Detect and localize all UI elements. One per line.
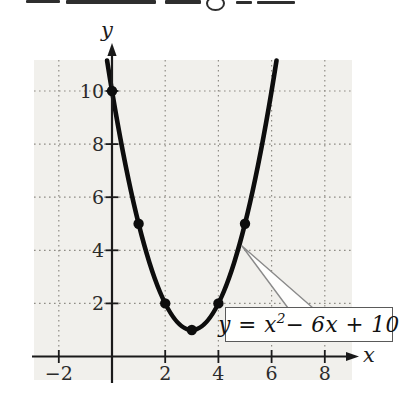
- x-tick-label: 2: [159, 364, 171, 383]
- y-tick-label: 8: [62, 135, 104, 154]
- data-point: [133, 219, 143, 229]
- data-point: [240, 219, 250, 229]
- x-tick-label: 4: [212, 364, 224, 383]
- x-tick-label: 6: [266, 364, 278, 383]
- y-tick-label: 10: [62, 82, 104, 101]
- y-axis-arrowhead: [107, 43, 116, 56]
- data-point: [160, 298, 170, 308]
- equation-callout-box: y = x2 − 6x + 10: [225, 307, 393, 342]
- y-tick-label: 2: [62, 294, 104, 313]
- y-axis-label: y: [101, 20, 113, 41]
- figure-canvas: y x −22468 246810 y = x2 − 6x + 10: [0, 0, 408, 408]
- x-tick-label: 8: [319, 364, 331, 383]
- equation-rhs: − 6x + 10: [286, 312, 400, 337]
- y-tick-label: 4: [62, 241, 104, 260]
- y-tick-label: 6: [62, 188, 104, 207]
- x-axis-arrowhead: [346, 352, 359, 361]
- x-tick-label: −2: [45, 364, 73, 383]
- equation-lhs: y = x: [218, 312, 276, 337]
- equation-exponent: 2: [277, 310, 286, 326]
- data-point: [213, 298, 223, 308]
- data-point: [187, 325, 197, 335]
- x-axis-label: x: [363, 345, 375, 366]
- data-point: [107, 86, 117, 96]
